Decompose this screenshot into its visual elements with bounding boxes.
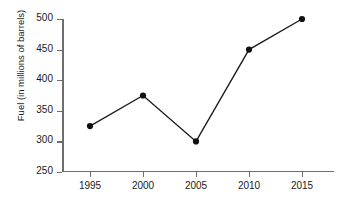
y-axis-title: Fuel (in millions of barrels) <box>15 0 26 156</box>
x-tick-label-2005: 2005 <box>185 180 207 191</box>
y-tick-label-250: 250 <box>36 165 53 176</box>
y-tick-label-450: 450 <box>36 43 53 54</box>
data-point-1995 <box>87 123 93 129</box>
line-chart: Fuel (in millions of barrels) 2503003504… <box>0 0 342 202</box>
data-point-2015 <box>299 16 305 22</box>
x-tick-2015 <box>302 172 303 177</box>
data-point-2000 <box>140 92 146 98</box>
x-tick-2005 <box>196 172 197 177</box>
y-tick-250: 250 <box>57 172 62 173</box>
plot-area: 250300350400450500 19952000200520102015 <box>62 19 334 172</box>
data-point-2010 <box>246 47 252 53</box>
x-tick-label-2000: 2000 <box>132 180 154 191</box>
x-tick-label-1995: 1995 <box>79 180 101 191</box>
y-tick-label-350: 350 <box>36 104 53 115</box>
x-tick-2000 <box>143 172 144 177</box>
data-series-group <box>62 19 334 172</box>
x-tick-label-2010: 2010 <box>238 180 260 191</box>
x-tick-1995 <box>90 172 91 177</box>
series-line-fuel <box>90 19 302 141</box>
y-tick-label-500: 500 <box>36 12 53 23</box>
data-point-2005 <box>193 138 199 144</box>
y-tick-label-300: 300 <box>36 134 53 145</box>
y-tick-label-400: 400 <box>36 73 53 84</box>
x-tick-label-2015: 2015 <box>291 180 313 191</box>
x-tick-2010 <box>249 172 250 177</box>
series-markers <box>87 16 305 145</box>
